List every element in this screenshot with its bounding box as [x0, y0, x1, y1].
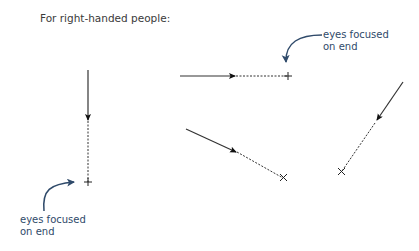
annotation-line1: eyes focused — [20, 214, 86, 226]
annotation-line1: eyes focused — [323, 29, 389, 41]
end-cross-icon — [280, 174, 287, 181]
annotation-line2: on end — [20, 226, 86, 238]
end-cross-icon — [84, 178, 92, 186]
stroke-diagonal-down-left — [338, 82, 403, 175]
annotation-line2: on end — [323, 41, 389, 53]
pointer-arrow-icon — [286, 35, 322, 62]
end-cross-icon — [284, 72, 292, 80]
pointer-arrow-icon — [44, 182, 74, 211]
annotation-top-right: eyes focused on end — [323, 29, 389, 53]
annotation-bottom-left: eyes focused on end — [20, 214, 86, 238]
stroke-vertical-down — [84, 70, 92, 186]
stroke-horizontal-right — [180, 72, 292, 80]
end-cross-icon — [338, 168, 345, 175]
stroke-diagonal-down-right — [186, 129, 287, 181]
